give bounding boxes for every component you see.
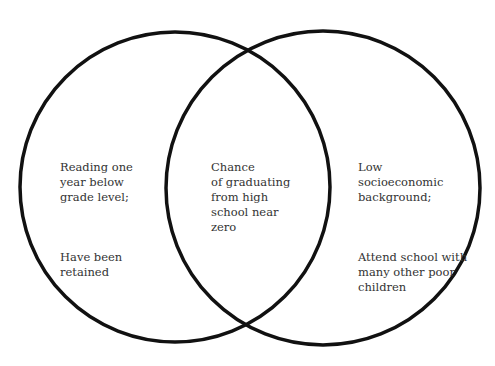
left-circle-text-2: Have been retained [60, 250, 133, 280]
intersection-text: Chance of graduating from high school ne… [211, 160, 290, 235]
right-circle-text-2: Attend school with many other poor child… [358, 250, 467, 295]
right-circle-label: Low socioeconomic background; Attend sch… [358, 145, 467, 310]
intersection-label: Chance of graduating from high school ne… [211, 145, 290, 250]
right-circle-text-1: Low socioeconomic background; [358, 160, 467, 205]
left-circle-label: Reading one year below grade level; Have… [60, 145, 133, 295]
left-circle-text-1: Reading one year below grade level; [60, 160, 133, 205]
